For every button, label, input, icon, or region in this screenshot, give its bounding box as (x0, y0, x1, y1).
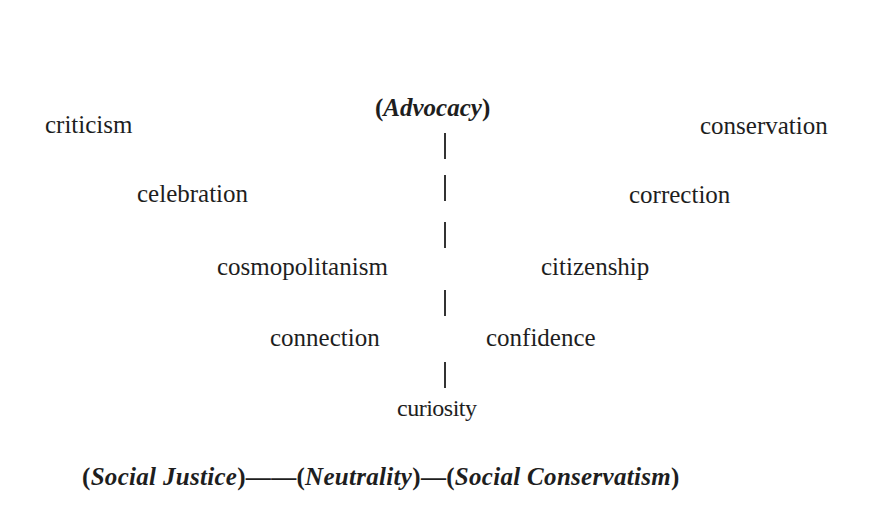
axis-social-conservatism: (Social Conservatism) (446, 463, 679, 490)
term-celebration: celebration (137, 181, 248, 206)
term-conservation: conservation (700, 113, 828, 138)
term-curiosity: curiosity (397, 396, 477, 420)
term-criticism: criticism (45, 112, 132, 137)
term-cosmopolitanism: cosmopolitanism (217, 254, 388, 279)
axis-connector-right: — (421, 463, 446, 490)
axis-segment-1 (444, 133, 446, 159)
axis-segment-5 (444, 362, 446, 388)
bottom-axis: (Social Justice)——(Neutrality)—(Social C… (82, 464, 680, 489)
axis-segment-4 (444, 290, 446, 316)
axis-segment-3 (444, 222, 446, 248)
axis-connector-left: —— (246, 463, 297, 490)
axis-social-justice: (Social Justice) (82, 463, 246, 490)
term-connection: connection (270, 325, 380, 350)
axis-neutrality: (Neutrality) (296, 463, 420, 490)
axis-segment-2 (444, 175, 446, 201)
top-label-advocacy: (Advocacy) (375, 95, 490, 120)
term-citizenship: citizenship (541, 254, 649, 279)
term-confidence: confidence (486, 325, 596, 350)
term-correction: correction (629, 182, 730, 207)
